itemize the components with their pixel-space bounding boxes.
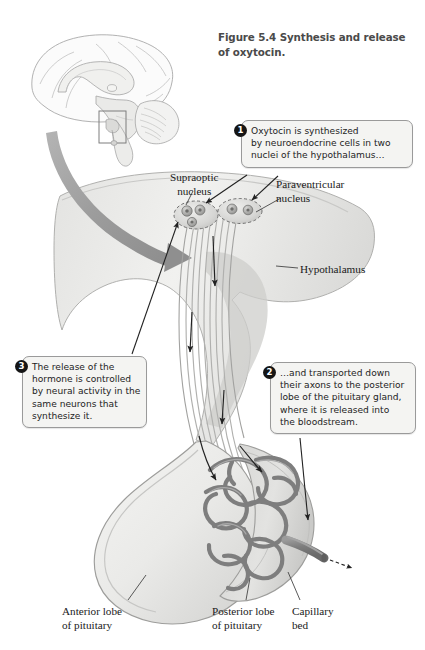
supraoptic-line-1: Supraoptic <box>170 170 218 184</box>
supraoptic-line-2: nucleus <box>170 184 218 198</box>
callout-2-line-3: lobe of the pituitary gland, <box>280 391 409 403</box>
label-paraventricular-nucleus: Paraventricular nucleus <box>276 177 344 205</box>
callout-text-2: …and transported down their axons to the… <box>280 367 409 428</box>
callout-2-line-5: the bloodstream. <box>280 416 409 428</box>
callout-3-line-4: same neurons that <box>32 398 140 410</box>
label-supraoptic-nucleus: Supraoptic nucleus <box>170 170 218 198</box>
callout-step-2: 2 …and transported down their axons to t… <box>270 362 416 434</box>
label-capillary-bed: Capillary bed <box>292 604 334 632</box>
callout-step-1: 1 Oxytocin is synthesized by neuroendocr… <box>241 120 413 168</box>
figure-title: Figure 5.4 Synthesis and release of oxyt… <box>218 30 418 59</box>
anterior-lobe-line-1: Anterior lobe <box>62 604 122 618</box>
callout-2-line-2: their axons to the posterior <box>280 379 409 391</box>
pituitary-gland <box>94 441 314 624</box>
callout-1-line-2: by neuroendocrine cells in two <box>251 137 406 149</box>
callout-3-line-5: synthesize it. <box>32 410 140 422</box>
label-hypothalamus: Hypothalamus <box>300 262 365 276</box>
paraventricular-nucleus <box>218 199 262 224</box>
callout-badge-2: 2 <box>263 366 276 379</box>
oxytocin-illustration <box>0 0 425 650</box>
callout-2-line-4: where it is released into <box>280 404 409 416</box>
paraventricular-line-1: Paraventricular <box>276 177 344 191</box>
callout-badge-1: 1 <box>234 124 247 137</box>
figure-title-line2: of oxytocin. <box>218 46 285 58</box>
anterior-lobe-line-2: of pituitary <box>62 618 122 632</box>
supraoptic-nucleus <box>174 201 218 229</box>
paraventricular-line-2: nucleus <box>276 191 344 205</box>
capillary-bed-line-2: bed <box>292 618 334 632</box>
callout-3-line-1: The release of the <box>32 361 140 373</box>
callout-text-3: The release of the hormone is controlled… <box>32 361 140 422</box>
figure-title-line1: Synthesis and release <box>280 31 406 43</box>
callout-2-line-1: …and transported down <box>280 367 409 379</box>
callout-text-1: Oxytocin is synthesized by neuroendocrin… <box>251 125 406 162</box>
figure-container: Figure 5.4 Synthesis and release of oxyt… <box>0 0 425 650</box>
callout-step-3: 3 The release of the hormone is controll… <box>22 356 147 428</box>
hypothalamus-line-1: Hypothalamus <box>300 262 365 276</box>
callout-3-line-2: hormone is controlled <box>32 373 140 385</box>
callout-1-line-3: nuclei of the hypothalamus… <box>251 149 406 161</box>
callout-badge-3: 3 <box>15 360 28 373</box>
capillary-bed-line-1: Capillary <box>292 604 334 618</box>
posterior-lobe-line-1: Posterior lobe <box>212 604 274 618</box>
callout-3-line-3: by neural activity in the <box>32 385 140 397</box>
callout-1-line-1: Oxytocin is synthesized <box>251 125 406 137</box>
posterior-lobe-line-2: of pituitary <box>212 618 274 632</box>
label-anterior-lobe: Anterior lobe of pituitary <box>62 604 122 632</box>
label-posterior-lobe: Posterior lobe of pituitary <box>212 604 274 632</box>
figure-number: Figure 5.4 <box>218 31 276 43</box>
